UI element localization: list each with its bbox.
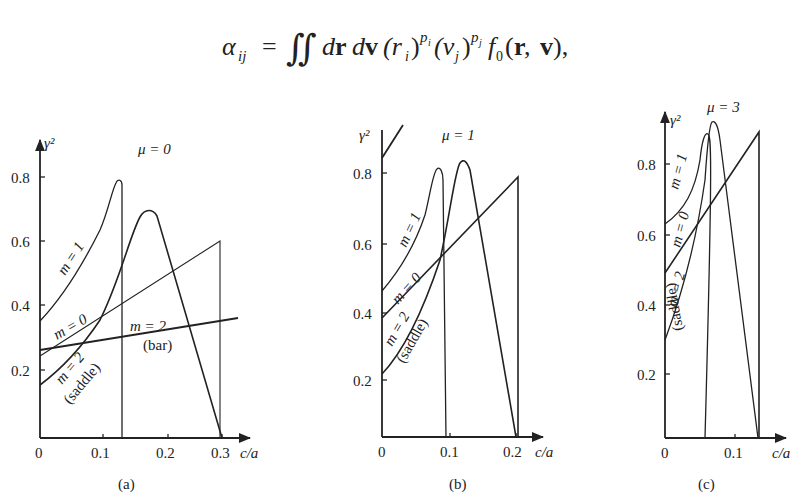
curve-b-m1 (382, 168, 446, 437)
ytick-c-0.8: 0.8 (637, 157, 656, 173)
panel-b-text: γ² μ = 1 0.8 0.6 0.4 0.2 0 0.1 0.2 c/a (… (353, 127, 553, 493)
ytick-b-0.6: 0.6 (353, 237, 372, 253)
xtick-b-0.2: 0.2 (503, 444, 522, 460)
ytick-b-0.2: 0.2 (353, 373, 372, 389)
ytick-c-0.4: 0.4 (637, 298, 656, 314)
ytick-a-0.2: 0.2 (11, 363, 30, 379)
xtick-b-0: 0 (378, 444, 386, 460)
label-a-bar: m = 2 (130, 318, 166, 334)
label-c-m1: m = 1 (665, 152, 690, 191)
panel-label-c: (c) (698, 476, 715, 493)
xtick-a-0: 0 (35, 445, 43, 461)
ytick-a-0.4: 0.4 (11, 298, 30, 314)
curve-a-m1 (40, 180, 122, 438)
ytick-c-0.6: 0.6 (637, 228, 656, 244)
ytick-a-0.6: 0.6 (11, 234, 30, 250)
label-a-m0: m = 0 (51, 311, 91, 343)
curve-b-top (382, 125, 403, 158)
panel-label-b: (b) (449, 476, 467, 493)
xlabel-c: c/a (772, 445, 790, 461)
panel-c-text: γ² μ = 3 0.8 0.6 0.4 0.2 0 0.1 c/a (c) m… (637, 99, 790, 493)
ylabel-b: γ² (359, 127, 370, 143)
ytick-a-0.8: 0.8 (11, 170, 30, 186)
title-a: μ = 0 (137, 141, 171, 157)
xlabel-b: c/a (535, 444, 553, 460)
xtick-c-0: 0 (661, 445, 669, 461)
xlabel-a: c/a (240, 445, 258, 461)
xtick-a-0.1: 0.1 (91, 445, 110, 461)
label-a-m1: m = 1 (54, 239, 87, 278)
xtick-c-0.1: 0.1 (724, 445, 743, 461)
panel-label-a: (a) (118, 476, 135, 493)
ytick-b-0.4: 0.4 (353, 306, 372, 322)
xtick-b-0.1: 0.1 (440, 444, 459, 460)
xtick-a-0.3: 0.3 (211, 445, 230, 461)
plots: γ² μ = 0 0.8 0.6 0.4 0.2 0 0.1 0.2 0.3 c… (0, 0, 811, 501)
label-c-m0: m = 0 (667, 209, 692, 248)
xtick-a-0.2: 0.2 (156, 445, 175, 461)
panel-a-text: γ² μ = 0 0.8 0.6 0.4 0.2 0 0.1 0.2 0.3 c… (11, 135, 258, 493)
label-b-m0: m = 0 (388, 269, 424, 307)
ylabel-c: γ² (670, 112, 681, 128)
label-a-bar-note: (bar) (143, 337, 172, 354)
curve-b-m0 (382, 177, 518, 437)
title-c: μ = 3 (706, 99, 740, 115)
ytick-b-0.8: 0.8 (353, 166, 372, 182)
ytick-c-0.2: 0.2 (637, 367, 656, 383)
title-b: μ = 1 (441, 127, 475, 143)
ylabel-a: γ² (44, 135, 55, 151)
